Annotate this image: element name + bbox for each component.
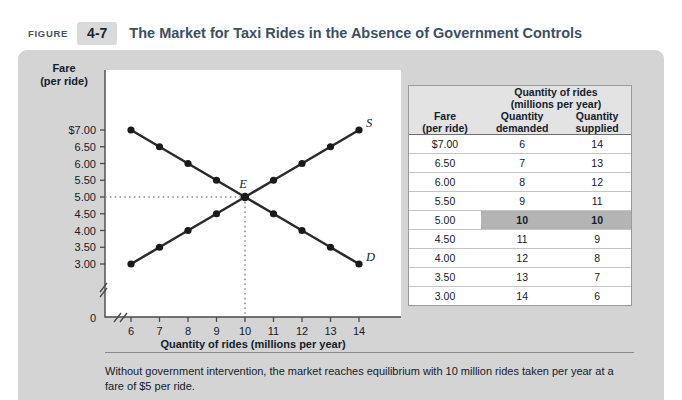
cell-fare: 4.00 [409, 249, 481, 268]
y-axis-tick-label: 6.00 [75, 158, 96, 170]
data-point-supply [184, 227, 191, 234]
table-header-supplied-line1: Quantity [563, 110, 631, 122]
y-axis-tick-label: 5.50 [75, 174, 96, 186]
x-axis-tick-label: 6 [128, 325, 134, 337]
curve-label-d: D [365, 250, 375, 264]
x-axis-tick-label: 8 [185, 325, 191, 337]
table-header-demanded-line2: demanded [481, 122, 563, 134]
x-axis-tick-label: 9 [213, 325, 219, 337]
y-axis-tick-label: 4.00 [75, 225, 96, 237]
cell-quantity-supplied: 6 [563, 287, 631, 306]
cell-quantity-supplied: 8 [563, 249, 631, 268]
table-header-group: Quantity of rides (millions per year) [481, 86, 631, 110]
cell-quantity-demanded: 11 [481, 230, 563, 249]
table-body: $7.006146.507136.008125.509115.0010104.5… [409, 135, 631, 306]
data-point-demand [156, 143, 163, 150]
table-header-fare-line1: Fare [409, 110, 481, 122]
table-header-group-line2: (millions per year) [481, 98, 631, 110]
table-row: 6.50713 [409, 154, 631, 173]
quantity-data-table: Fare (per ride) Quantity of rides (milli… [408, 85, 632, 306]
data-point-demand [213, 177, 220, 184]
x-axis-tick-label: 11 [268, 325, 279, 337]
table-row: 3.50137 [409, 268, 631, 287]
data-point-supply [127, 260, 134, 267]
figure-caption: Without government intervention, the mar… [105, 364, 630, 394]
cell-quantity-supplied: 10 [563, 211, 631, 230]
cell-fare: 5.50 [409, 192, 481, 211]
data-point-demand [355, 260, 362, 267]
cell-quantity-supplied: 7 [563, 268, 631, 287]
table-row: 6.00812 [409, 173, 631, 192]
y-axis-tick-label: 3.50 [75, 241, 96, 253]
cell-quantity-demanded: 14 [481, 287, 563, 306]
data-point-supply [213, 210, 220, 217]
table-header-demanded-line1: Quantity [481, 110, 563, 122]
table-header-supplied: Quantity supplied [563, 110, 631, 135]
footer-divider [105, 352, 634, 353]
table-row: $7.00614 [409, 135, 631, 154]
cell-quantity-demanded: 12 [481, 249, 563, 268]
table-row: 5.001010 [409, 211, 631, 230]
cell-quantity-demanded: 6 [481, 135, 563, 154]
table-header-demanded: Quantity demanded [481, 110, 563, 135]
cell-fare: 6.00 [409, 173, 481, 192]
axis-origin-label: 0 [90, 312, 96, 324]
y-axis-tick-label: 6.50 [75, 141, 96, 153]
y-axis-break-icon [100, 283, 107, 297]
table-row: 4.50119 [409, 230, 631, 249]
table-header-group-line1: Quantity of rides [481, 86, 631, 98]
cell-quantity-supplied: 9 [563, 230, 631, 249]
curve-label-s: S [366, 116, 373, 130]
cell-fare: 3.00 [409, 287, 481, 306]
table-header-supplied-line2: supplied [563, 122, 631, 134]
cell-fare: 4.50 [409, 230, 481, 249]
data-point-supply [156, 244, 163, 251]
data-point-supply [298, 160, 305, 167]
cell-fare: 3.50 [409, 268, 481, 287]
data-point-supply [270, 177, 277, 184]
data-point-supply [355, 126, 362, 133]
cell-fare: 6.50 [409, 154, 481, 173]
cell-quantity-supplied: 14 [563, 135, 631, 154]
y-axis-tick-label: 3.00 [75, 258, 96, 270]
cell-quantity-demanded: 10 [481, 211, 563, 230]
data-point-demand [127, 126, 134, 133]
x-axis-tick-label: 10 [239, 325, 251, 337]
x-axis-tick-label: 12 [296, 325, 308, 337]
data-point-supply [327, 143, 334, 150]
table-header-fare: Fare (per ride) [409, 86, 481, 135]
cell-quantity-demanded: 7 [481, 154, 563, 173]
x-axis-tick-label: 7 [156, 325, 162, 337]
equilibrium-label: E [238, 177, 247, 191]
x-axis-tick-label: 13 [324, 325, 336, 337]
cell-quantity-supplied: 11 [563, 192, 631, 211]
table-row: 5.50911 [409, 192, 631, 211]
cell-quantity-supplied: 12 [563, 173, 631, 192]
table-row: 4.00128 [409, 249, 631, 268]
cell-quantity-demanded: 9 [481, 192, 563, 211]
y-axis-tick-label: $7.00 [68, 124, 96, 136]
cell-fare: $7.00 [409, 135, 481, 154]
cell-fare: 5.00 [409, 211, 481, 230]
table-header-fare-line2: (per ride) [409, 122, 481, 134]
cell-quantity-demanded: 13 [481, 268, 563, 287]
table-row: 3.00146 [409, 287, 631, 306]
data-point-demand [270, 210, 277, 217]
cell-quantity-demanded: 8 [481, 173, 563, 192]
data-point-demand [298, 227, 305, 234]
figure-container: FIGURE 4-7 The Market for Taxi Rides in … [0, 0, 682, 400]
data-point-demand [327, 244, 334, 251]
y-axis-tick-label: 5.00 [75, 191, 96, 203]
y-axis-tick-label: 4.50 [75, 208, 96, 220]
x-axis-tick-label: 14 [353, 325, 365, 337]
data-point-demand [184, 160, 191, 167]
equilibrium-point [241, 193, 249, 201]
cell-quantity-supplied: 13 [563, 154, 631, 173]
